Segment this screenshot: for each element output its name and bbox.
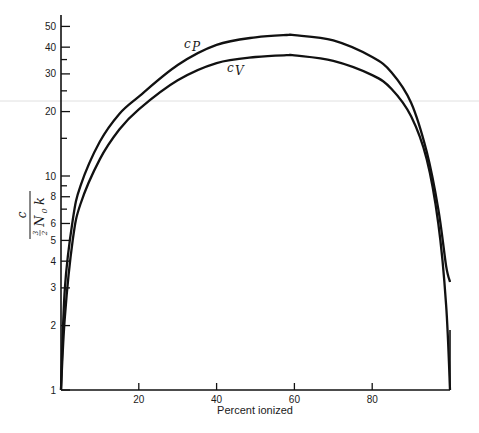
svg-text:c: c	[227, 61, 234, 75]
y-tick-label: 8	[50, 191, 56, 202]
y-tick-label: 6	[50, 218, 56, 229]
svg-text:P: P	[191, 40, 201, 54]
ylabel-frac-den: 2	[41, 230, 49, 236]
curves	[61, 35, 450, 390]
y-tick-label: 20	[45, 106, 57, 117]
svg-text:c: c	[184, 37, 191, 51]
ylabel-subscript: 0	[40, 208, 49, 213]
ylabel-symbol: N	[32, 215, 47, 228]
x-axis-title: Percent ionized	[217, 404, 293, 416]
y-tick-label: 10	[45, 171, 57, 182]
chart: 12345681020304050 20406080 Percent ioniz…	[0, 0, 479, 433]
y-axis-title: c 3 2 N 0 k	[15, 191, 49, 239]
ylabel-trailing: k	[32, 197, 47, 205]
ylabel-numerator: c	[15, 211, 29, 218]
x-tick-label: 80	[367, 394, 379, 405]
series-label-cp: c P	[184, 37, 201, 54]
y-tick-label: 1	[50, 385, 56, 396]
y-tick-label: 30	[45, 68, 57, 79]
series-label-cv: c V	[227, 61, 245, 78]
y-tick-label: 3	[50, 282, 56, 293]
y-tick-label: 2	[50, 320, 56, 331]
y-tick-label: 5	[50, 235, 56, 246]
y-ticks: 12345681020304050	[45, 21, 70, 396]
series-line-cv	[61, 55, 450, 390]
svg-text:V: V	[235, 64, 245, 78]
x-tick-label: 20	[133, 394, 145, 405]
x-ticks: 20406080	[133, 383, 378, 405]
ylabel-frac-num: 3	[32, 230, 40, 235]
y-tick-label: 50	[45, 21, 57, 32]
y-tick-label: 40	[45, 42, 57, 53]
y-tick-label: 4	[50, 256, 56, 267]
